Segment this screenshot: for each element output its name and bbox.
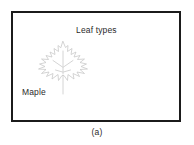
figure-frame: Leaf types Maple: [11, 11, 181, 122]
panel-title: Leaf types: [76, 25, 117, 35]
maple-leaf-icon: [36, 39, 90, 97]
figure-container: Leaf types Maple (a): [0, 0, 194, 145]
figure-caption: (a): [0, 127, 194, 138]
